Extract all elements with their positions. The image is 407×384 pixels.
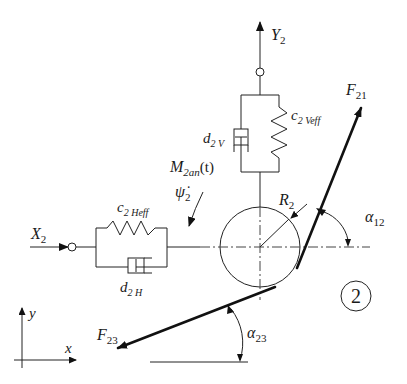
d2v-label: d2 V [203,130,226,149]
axis-y-label: y [27,305,36,321]
alpha12-label: α12 [365,208,384,228]
f21-label: F21 [345,81,367,101]
c2veff-label: c2 Veff [291,107,321,126]
spring-h-icon [96,221,167,235]
horizontal-spring-damper [96,221,200,273]
axis-x-label: x [64,340,72,356]
wheel [200,204,370,300]
alpha12-arc [324,212,348,240]
spring-v-icon [271,95,287,172]
f21-force-arrow [297,108,361,268]
alpha23-label: α23 [247,324,267,344]
r2-label: R2 [278,191,294,211]
body-number: 2 [351,285,361,307]
moment-arrow-icon [189,192,203,226]
mechanical-diagram: Y2 c2 Veff d2 V X2 [0,0,407,384]
moment-label: M2an(t) [169,158,214,178]
x2-label: X2 [30,225,46,245]
xy-reference-axes [14,308,76,368]
psi-dot-label: ψ̇2 [175,183,190,203]
d2h-label: d2 H [120,279,143,298]
c2heff-label: c2 Heff [117,199,150,218]
f23-label: F23 [96,326,118,346]
y2-force-arrow [256,22,264,95]
y2-label: Y2 [271,26,285,46]
alpha23-arc [231,309,243,360]
